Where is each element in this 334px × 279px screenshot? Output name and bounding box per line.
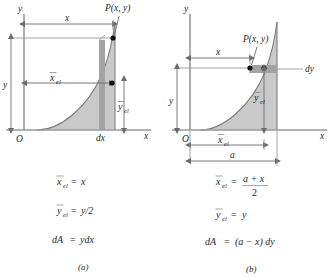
panel-a-yel-label: y xyxy=(117,101,123,112)
panel-b-yel-subscript: el xyxy=(260,98,265,105)
panel-b-formula-1-lhs: x xyxy=(215,176,221,187)
panel-a-formula-2-sub: el xyxy=(63,211,68,218)
panel-b-formula-2-eq: = xyxy=(231,209,237,220)
panel-a-formula-3: dA = ydx xyxy=(52,234,94,245)
panel-a-formula-2-lhs: y xyxy=(56,205,62,216)
panel-a-xel-subscript: el xyxy=(56,78,61,85)
panel-a-formula-2-rhs: y/2 xyxy=(80,205,93,216)
panel-b-y-axis-label: y xyxy=(183,4,189,14)
panel-b-strip-centroid-dot xyxy=(261,65,266,70)
panel-b-point-p xyxy=(247,65,252,70)
panel-b-formula-1-numerator: a + x xyxy=(243,173,265,184)
panel-b-formula-2-sub: el xyxy=(222,215,227,222)
panel-b-p-leader xyxy=(252,47,258,65)
panel-a-formula-1-lhs: x xyxy=(56,176,62,187)
panel-b-yel-label: y xyxy=(253,92,259,103)
panel-a-formula-1-eq: = xyxy=(71,176,77,187)
panel-b-formula-1-sub: el xyxy=(222,182,227,189)
panel-b-formula-3-lhs: dA xyxy=(205,236,217,247)
panel-a-strip-centroid-dot xyxy=(109,80,114,85)
panel-b-formula-1-denominator: 2 xyxy=(252,187,257,198)
panel-b-formula-1-eq: = xyxy=(231,176,237,187)
panel-a-dim-x-label: x xyxy=(64,13,70,23)
panel-b-caption: (b) xyxy=(246,264,257,274)
panel-a-xel-label: x xyxy=(49,72,55,83)
panel-a-x-axis-label: x xyxy=(143,131,149,141)
panel-a-point-label: P(x, y) xyxy=(104,3,130,14)
panel-a-caption: (a) xyxy=(78,262,89,272)
panel-a-point-p xyxy=(110,35,115,40)
panel-b-formula-3-eq: = xyxy=(224,236,230,247)
panel-b-xel-subscript: el xyxy=(224,140,229,147)
panel-a-origin-label: O xyxy=(16,134,23,144)
panel-a-formula-3-rhs: ydx xyxy=(79,234,94,245)
panel-a-y-axis-label: y xyxy=(17,4,23,14)
panel-a-dim-y-label: y xyxy=(2,80,8,90)
panel-a-strip-dx xyxy=(99,40,105,130)
panel-b-xel-label: x xyxy=(217,134,223,145)
panel-a: y x O x y P(x, y) x el y el dx xyxy=(2,3,151,144)
panel-b: y x O x y P(x, y) dy y el x el xyxy=(168,4,327,166)
panel-a-formulas: x el = x y el = y/2 dA = ydx (a) xyxy=(52,176,94,272)
panel-b-formula-2-lhs: y xyxy=(215,209,221,220)
panel-a-formula-1-sub: el xyxy=(63,182,68,189)
panel-a-formula-3-eq: = xyxy=(70,234,76,245)
panel-b-origin-label: O xyxy=(182,134,189,144)
panel-b-formula-1: x el = a + x 2 xyxy=(215,173,268,198)
panel-b-dim-a-label: a xyxy=(230,150,235,160)
panel-b-dim-x-label: x xyxy=(215,47,221,57)
panel-b-formula-2: y el = y xyxy=(215,209,247,222)
panel-a-strip-dx-top xyxy=(99,35,105,40)
panel-b-strip-label: dy xyxy=(305,64,315,74)
panel-b-point-label: P(x, y) xyxy=(242,34,268,45)
panel-a-formula-1-rhs: x xyxy=(80,176,86,187)
panel-a-formula-3-lhs: dA xyxy=(52,234,64,245)
panel-a-yel-subscript: el xyxy=(124,107,129,114)
panel-b-formula-3-rhs: (a − x) dy xyxy=(235,236,275,248)
panel-a-formula-1: x el = x xyxy=(56,176,86,189)
panel-a-formula-2: y el = y/2 xyxy=(56,205,93,218)
panel-b-formula-2-rhs: y xyxy=(241,209,247,220)
panel-b-formulas: x el = a + x 2 y el = y dA = (a − x) dy … xyxy=(205,173,275,274)
panel-a-formula-2-eq: = xyxy=(71,205,77,216)
centroid-figure: y x O x y P(x, y) x el y el dx xyxy=(0,0,334,279)
panel-b-formula-3: dA = (a − x) dy xyxy=(205,236,275,248)
panel-b-x-axis-label: x xyxy=(319,131,325,141)
panel-a-strip-label: dx xyxy=(96,133,106,143)
panel-b-dim-y-label: y xyxy=(168,96,174,106)
